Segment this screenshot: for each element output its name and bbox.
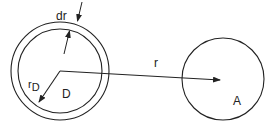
distance-r-arrow xyxy=(60,71,220,80)
label-d: D xyxy=(62,87,71,101)
label-a: A xyxy=(233,94,241,108)
label-r: r xyxy=(154,56,158,70)
dr-arrows xyxy=(64,2,82,54)
label-rd: rD xyxy=(28,78,40,93)
dr-arrow-outer xyxy=(78,2,83,21)
diagram-canvas: dr rD D r A xyxy=(0,0,275,130)
dr-arrow-inner xyxy=(64,31,70,54)
label-rd-sub: D xyxy=(32,81,40,93)
label-dr: dr xyxy=(56,9,67,23)
radius-rd-arrow xyxy=(39,71,60,102)
